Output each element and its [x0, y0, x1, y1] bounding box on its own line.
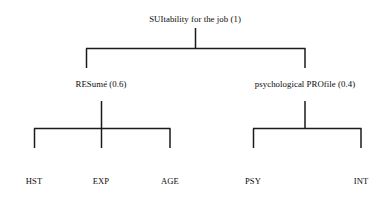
- tree-connector-lines: [0, 0, 389, 197]
- node-leaf-exp-name: EXP: [90, 176, 111, 186]
- node-leaf-exp: EXP (0.25): [90, 156, 111, 197]
- node-leaf-psy-name: PSY: [242, 176, 263, 186]
- node-leaf-age: AGE (0.10): [159, 156, 180, 197]
- node-root-suitability: SUItability for the job (1): [149, 14, 241, 24]
- node-leaf-hst-name: HST: [23, 176, 44, 186]
- node-leaf-int-name: INT: [350, 176, 371, 186]
- node-leaf-psy: PSY (0.20): [242, 156, 263, 197]
- node-leaf-int: INT (0.20): [350, 156, 371, 197]
- hierarchy-diagram: SUItability for the job (1) RESumé (0.6)…: [0, 0, 389, 197]
- node-resume: RESumé (0.6): [76, 79, 127, 89]
- node-psychological-profile: psychological PROfile (0.4): [255, 79, 355, 89]
- node-leaf-hst: HST (0.25): [23, 156, 44, 197]
- node-leaf-age-name: AGE: [159, 176, 180, 186]
